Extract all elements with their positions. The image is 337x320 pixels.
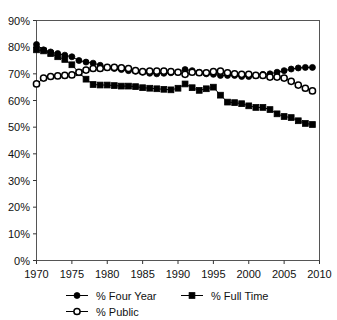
y-axis-tick-label: 70% xyxy=(8,68,30,80)
data-point-square xyxy=(83,76,89,82)
data-point-open-circle xyxy=(69,72,75,78)
data-point-open-circle xyxy=(224,70,230,76)
data-point-open-circle xyxy=(90,65,96,71)
data-point-square xyxy=(189,293,195,299)
plot-frame xyxy=(37,21,320,261)
data-point-circle xyxy=(48,49,54,55)
data-point-square xyxy=(253,105,259,111)
y-axis-tick-label: 30% xyxy=(8,175,30,187)
data-point-open-circle xyxy=(40,75,46,81)
data-point-circle xyxy=(295,65,301,71)
data-point-open-circle xyxy=(104,64,110,70)
data-point-open-circle xyxy=(302,85,308,91)
legend-label: % Four Year xyxy=(96,290,157,302)
data-point-circle xyxy=(309,64,315,70)
y-axis-tick-label: 50% xyxy=(8,121,30,133)
data-point-circle xyxy=(69,54,75,60)
legend-item-full-time[interactable]: % Full Time xyxy=(181,290,268,302)
data-point-open-circle xyxy=(62,72,68,78)
data-point-open-circle xyxy=(48,73,54,79)
data-point-square xyxy=(239,101,245,107)
data-point-square xyxy=(246,103,252,109)
data-point-square xyxy=(175,85,181,91)
data-point-open-circle xyxy=(154,68,160,74)
data-point-square xyxy=(182,81,188,87)
data-point-square xyxy=(232,100,238,106)
data-point-square xyxy=(90,82,96,88)
data-point-open-circle xyxy=(161,68,167,74)
data-point-open-circle xyxy=(267,74,273,80)
data-point-square xyxy=(140,85,146,91)
data-point-open-circle xyxy=(140,69,146,75)
data-point-circle xyxy=(281,68,287,74)
legend-label: % Public xyxy=(96,306,139,318)
data-point-square xyxy=(126,83,132,89)
data-point-square xyxy=(210,84,216,90)
data-point-circle xyxy=(62,52,68,58)
data-point-open-circle xyxy=(83,67,89,73)
data-point-open-circle xyxy=(281,75,287,81)
x-axis-tick-label: 2010 xyxy=(307,268,331,280)
x-axis-tick-label: 1980 xyxy=(95,268,119,280)
x-axis-tick-label: 2000 xyxy=(237,268,261,280)
data-point-square xyxy=(69,62,75,68)
data-point-open-circle xyxy=(168,69,174,75)
data-point-open-circle xyxy=(246,71,252,77)
data-point-square xyxy=(119,83,125,89)
data-point-square xyxy=(104,82,110,88)
data-point-open-circle xyxy=(147,68,153,74)
data-point-open-circle xyxy=(309,88,315,94)
data-point-open-circle xyxy=(132,68,138,74)
data-point-open-circle xyxy=(239,71,245,77)
data-point-square xyxy=(288,115,294,121)
data-point-open-circle xyxy=(125,65,131,71)
data-point-open-circle xyxy=(118,65,124,71)
legend-item-four-year[interactable]: % Four Year xyxy=(66,290,157,302)
data-point-circle xyxy=(83,59,89,65)
data-point-square xyxy=(111,83,117,89)
data-point-square xyxy=(154,86,160,92)
y-axis-tick-label: 0% xyxy=(14,255,30,267)
data-point-circle xyxy=(76,58,82,64)
data-point-square xyxy=(168,87,174,93)
data-point-square xyxy=(267,107,273,113)
legend-item-public[interactable]: % Public xyxy=(66,306,139,318)
data-point-circle xyxy=(41,47,47,53)
data-point-open-circle xyxy=(196,70,202,76)
data-point-open-circle xyxy=(253,72,259,78)
data-point-open-circle xyxy=(97,65,103,71)
data-point-square xyxy=(133,84,139,90)
data-point-square xyxy=(274,111,280,117)
data-point-circle xyxy=(302,64,308,70)
data-point-open-circle xyxy=(111,64,117,70)
data-point-square xyxy=(161,86,167,92)
data-point-open-circle xyxy=(182,71,188,77)
data-point-open-circle xyxy=(288,78,294,84)
data-point-open-circle xyxy=(260,72,266,78)
data-point-square xyxy=(295,118,301,124)
x-axis-tick-label: 1995 xyxy=(201,268,225,280)
y-axis-tick-label: 60% xyxy=(8,95,30,107)
data-point-open-circle xyxy=(74,308,80,314)
y-axis-tick-label: 90% xyxy=(8,15,30,27)
x-axis-tick-label: 1975 xyxy=(60,268,84,280)
data-point-square xyxy=(281,114,287,120)
data-point-open-circle xyxy=(76,69,82,75)
y-axis-tick-label: 40% xyxy=(8,148,30,160)
x-axis-tick-label: 1970 xyxy=(24,268,48,280)
data-point-open-circle xyxy=(203,70,209,76)
data-point-square xyxy=(302,121,308,127)
data-point-square xyxy=(147,85,153,91)
y-axis-tick-label: 10% xyxy=(8,228,30,240)
y-axis-tick-label: 80% xyxy=(8,41,30,53)
data-point-square xyxy=(203,86,209,92)
data-point-circle xyxy=(74,293,80,299)
line-chart: 0%10%20%30%40%50%60%70%80%90%19701975198… xyxy=(0,0,337,320)
data-point-open-circle xyxy=(210,69,216,75)
chart-legend: % Four Year% Full Time% Public xyxy=(66,290,268,318)
data-point-square xyxy=(310,122,316,128)
data-point-open-circle xyxy=(33,81,39,87)
data-point-open-circle xyxy=(295,82,301,88)
data-point-square xyxy=(97,82,103,88)
data-point-square xyxy=(189,85,195,91)
